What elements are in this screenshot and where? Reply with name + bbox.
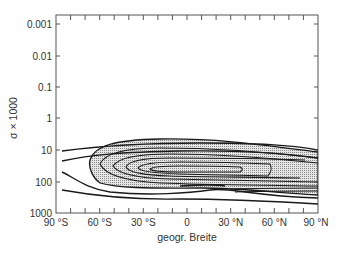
x-tick-label: 90 °S [44, 217, 69, 228]
x-tick-label: 0 [184, 217, 190, 228]
y-tick-labels: 0.001 0.01 0.1 1 10 100 1000 [27, 19, 52, 219]
y-tick-label: 0.001 [27, 19, 52, 30]
x-tick-label: 90 °N [303, 217, 328, 228]
x-tick-label: 30 °S [131, 217, 156, 228]
x-axis-title: geogr. Breite [157, 231, 217, 243]
x-tick-labels: 90 °S 60 °S 30 °S 0 30 °N 60 °N 90 °N [44, 217, 329, 228]
x-tick-label: 60 °S [87, 217, 112, 228]
contour-chart: 0.001 0.01 0.1 1 10 100 1000 90 °S 60 °S… [0, 0, 343, 255]
y-tick-label: 1 [46, 113, 52, 124]
x-tick-label: 30 °N [218, 217, 243, 228]
y-tick-label: 0.1 [38, 82, 52, 93]
y-tick-label: 0.01 [33, 51, 53, 62]
x-tick-label: 60 °N [262, 217, 287, 228]
y-axis-title: σ × 1000 [7, 97, 19, 139]
shaded-region [90, 139, 318, 195]
y-tick-label: 100 [35, 177, 52, 188]
y-tick-label: 10 [41, 145, 53, 156]
